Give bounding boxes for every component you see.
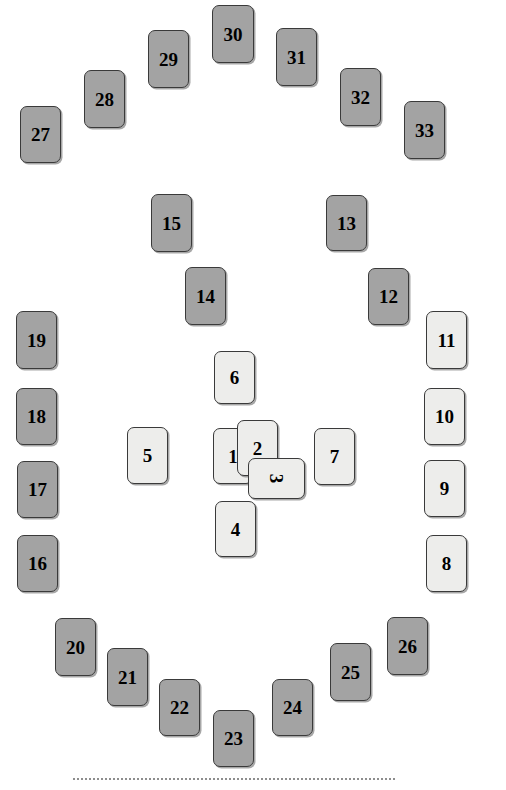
card-label: 22 <box>170 698 189 717</box>
card-label: 17 <box>28 480 47 499</box>
card-label: 9 <box>440 479 450 498</box>
card-19[interactable]: 19 <box>16 311 57 369</box>
card-label: 33 <box>415 121 434 140</box>
card-31[interactable]: 31 <box>276 28 317 86</box>
card-label: 26 <box>398 637 417 656</box>
card-3[interactable]: 3 <box>248 458 305 499</box>
card-label: 21 <box>118 668 137 687</box>
card-21[interactable]: 21 <box>107 648 148 706</box>
card-16[interactable]: 16 <box>17 535 58 592</box>
card-label: 25 <box>341 663 360 682</box>
card-label: 19 <box>27 331 46 350</box>
card-5[interactable]: 5 <box>127 427 168 484</box>
card-label: 13 <box>337 214 356 233</box>
card-8[interactable]: 8 <box>426 535 467 592</box>
card-label: 4 <box>231 520 241 539</box>
card-26[interactable]: 26 <box>387 617 428 675</box>
card-7[interactable]: 7 <box>314 428 355 485</box>
card-label: 10 <box>435 407 454 426</box>
card-label: 31 <box>287 48 306 67</box>
card-22[interactable]: 22 <box>159 679 200 736</box>
card-14[interactable]: 14 <box>185 267 226 325</box>
card-label: 24 <box>283 698 302 717</box>
card-11[interactable]: 11 <box>426 311 467 369</box>
card-label: 14 <box>196 287 215 306</box>
card-29[interactable]: 29 <box>148 30 189 88</box>
card-13[interactable]: 13 <box>326 195 367 251</box>
card-15[interactable]: 15 <box>151 194 192 252</box>
card-label: 27 <box>31 125 50 144</box>
card-label: 18 <box>27 407 46 426</box>
card-18[interactable]: 18 <box>16 388 57 445</box>
card-27[interactable]: 27 <box>20 106 61 163</box>
dotted-baseline <box>73 778 395 780</box>
card-20[interactable]: 20 <box>55 618 96 676</box>
card-17[interactable]: 17 <box>17 461 58 518</box>
card-label: 20 <box>66 638 85 657</box>
card-label: 15 <box>162 214 181 233</box>
card-label: 30 <box>224 25 243 44</box>
card-label: 11 <box>438 331 456 350</box>
card-4[interactable]: 4 <box>215 501 256 557</box>
card-32[interactable]: 32 <box>340 68 381 126</box>
card-label: 3 <box>267 474 286 484</box>
card-23[interactable]: 23 <box>213 710 254 767</box>
card-label: 28 <box>95 90 114 109</box>
card-label: 29 <box>159 50 178 69</box>
card-28[interactable]: 28 <box>84 70 125 128</box>
card-label: 6 <box>230 368 240 387</box>
card-30[interactable]: 30 <box>212 5 254 63</box>
card-label: 32 <box>351 88 370 107</box>
card-label: 12 <box>379 287 398 306</box>
card-25[interactable]: 25 <box>330 643 371 701</box>
card-layout-canvas: 1234567891011121314151617181920212223242… <box>0 0 506 790</box>
card-label: 8 <box>442 554 452 573</box>
card-label: 2 <box>253 439 263 458</box>
card-label: 7 <box>330 447 340 466</box>
card-9[interactable]: 9 <box>424 460 465 517</box>
card-label: 16 <box>28 554 47 573</box>
card-label: 5 <box>143 446 153 465</box>
card-33[interactable]: 33 <box>404 101 445 159</box>
card-label: 23 <box>224 729 243 748</box>
card-24[interactable]: 24 <box>272 679 313 736</box>
card-10[interactable]: 10 <box>424 388 465 445</box>
card-6[interactable]: 6 <box>214 351 255 404</box>
card-12[interactable]: 12 <box>368 268 409 325</box>
